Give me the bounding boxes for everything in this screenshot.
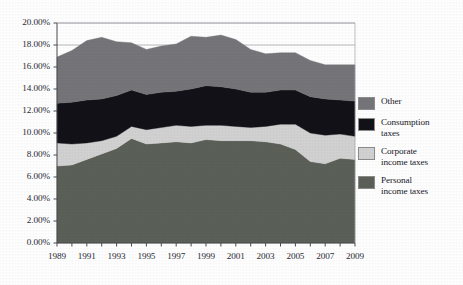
- y-axis-tick-label: 18.00%: [0, 39, 50, 49]
- stacked-area-chart: 0.00%2.00%4.00%6.00%8.00%10.00%12.00%14.…: [0, 0, 463, 285]
- legend-swatch-icon: [358, 147, 375, 160]
- legend-swatch-icon: [358, 118, 375, 131]
- y-axis-tick-label: 20.00%: [0, 17, 50, 27]
- legend-label-line: Corporate: [381, 146, 428, 157]
- y-axis-tick-label: 2.00%: [0, 215, 50, 225]
- y-axis-tick-label: 14.00%: [0, 83, 50, 93]
- y-axis-tick-label: 6.00%: [0, 171, 50, 181]
- y-axis-tick-label: 12.00%: [0, 105, 50, 115]
- legend-item: Personalincome taxes: [358, 175, 461, 197]
- y-axis-tick-label: 10.00%: [0, 127, 50, 137]
- legend-item: Consumptiontaxes: [358, 117, 461, 139]
- y-axis-tick-label: 0.00%: [0, 237, 50, 247]
- legend-label-line: Consumption: [381, 117, 429, 128]
- legend-label: Consumptiontaxes: [381, 117, 429, 139]
- y-axis-tick-label: 8.00%: [0, 149, 50, 159]
- legend-label-line: income taxes: [381, 186, 428, 197]
- legend-label: Other: [381, 96, 401, 107]
- legend-label-line: taxes: [381, 128, 429, 139]
- legend-label-line: Personal: [381, 175, 428, 186]
- legend-label: Personalincome taxes: [381, 175, 428, 197]
- legend-item: Other: [358, 96, 461, 110]
- y-axis-tick-label: 4.00%: [0, 193, 50, 203]
- legend-item: Corporateincome taxes: [358, 146, 461, 168]
- legend-swatch-icon: [358, 176, 375, 189]
- legend-label: Corporateincome taxes: [381, 146, 428, 168]
- legend-swatch-icon: [358, 97, 375, 110]
- x-axis-tick-label: 2009: [335, 251, 375, 261]
- chart-legend: OtherConsumptiontaxesCorporateincome tax…: [358, 96, 461, 204]
- legend-label-line: income taxes: [381, 157, 428, 168]
- legend-label-line: Other: [381, 96, 401, 107]
- y-axis-tick-label: 16.00%: [0, 61, 50, 71]
